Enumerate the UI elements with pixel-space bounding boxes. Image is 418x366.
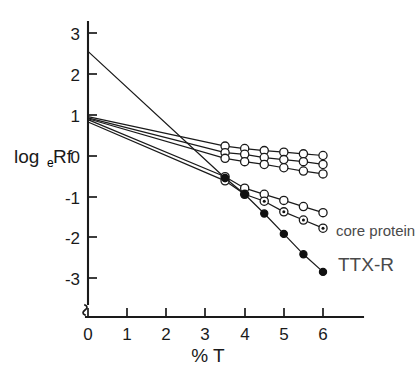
data-point-filled-circle [300,251,307,258]
data-point-center-dot [322,227,325,230]
y-tick-marks [88,33,97,278]
y-tick-label: -2 [65,229,80,248]
y-tick-label: 1 [71,107,80,126]
data-point-filled-circle [280,230,287,237]
axis-group: 3 2 1 0 -1 -2 -3 0 1 2 3 4 5 6 log e [14,22,363,366]
x-tick-label: 5 [279,325,288,344]
x-tick-label: 0 [83,325,92,344]
x-tick-marks [88,308,323,317]
data-point-open-circle [280,155,288,163]
data-point-open-circle [299,150,307,158]
x-tick-label: 1 [122,325,131,344]
ferguson-plot-svg: 3 2 1 0 -1 -2 -3 0 1 2 3 4 5 6 log e [0,0,418,366]
data-point-open-circle [280,164,288,172]
axis-break-icon [83,305,87,315]
series-series-5-core-protein [88,122,327,232]
annotation-core-protein: core protein [336,222,415,239]
y-axis-title-tail: Rf [53,146,73,167]
y-tick-label: 3 [71,25,80,44]
data-point-open-circle [319,170,327,178]
annotation-ttx-r: TTX-R [338,254,394,275]
data-point-open-circle [319,160,327,168]
data-point-open-circle [280,196,288,204]
data-point-open-circle [299,158,307,166]
y-tick-label: -1 [65,189,80,208]
y-axis-title: log e Rf [14,146,73,170]
y-tick-label: -3 [65,270,80,289]
x-tick-label: 6 [318,325,327,344]
data-point-filled-circle [221,174,228,181]
series-series-6-ttx-r [88,51,327,275]
series-layer [88,51,327,275]
x-tick-label: 2 [161,325,170,344]
data-point-open-circle [319,151,327,159]
data-point-open-circle [260,160,268,168]
data-point-center-dot [263,200,266,203]
data-point-filled-circle [241,191,248,198]
x-tick-label: 3 [200,325,209,344]
data-point-open-circle [221,154,229,162]
x-tick-labels: 0 1 2 3 4 5 6 [83,325,327,344]
x-tick-label: 4 [240,325,249,344]
figure-root: 3 2 1 0 -1 -2 -3 0 1 2 3 4 5 6 log e [0,0,418,366]
y-axis-title-main: log [14,146,39,167]
series-series-4-open [88,120,327,217]
data-point-filled-circle [261,210,268,217]
data-point-filled-circle [319,268,326,275]
data-point-open-circle [241,158,249,166]
x-axis-title: % T [191,345,225,366]
data-point-center-dot [302,219,305,222]
data-point-center-dot [282,210,285,213]
data-point-open-circle [299,202,307,210]
y-tick-label: 2 [71,66,80,85]
data-point-open-circle [319,209,327,217]
data-point-open-circle [299,167,307,175]
